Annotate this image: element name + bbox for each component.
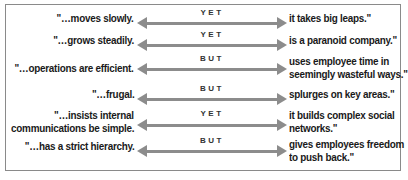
right-statement-line1: it builds complex social	[289, 109, 394, 122]
conjunction-label: BUT	[137, 54, 287, 63]
right-statement-line1: gives employees freedom	[289, 138, 404, 151]
double-arrow-icon	[137, 93, 287, 105]
right-statement: splurges on key areas."	[289, 88, 394, 101]
left-statement-line2: communications be simple.	[11, 122, 134, 135]
right-statement: it takes big leaps."	[289, 12, 371, 25]
left-statement: "…moves slowly.	[57, 12, 134, 25]
double-arrow-icon	[137, 119, 287, 131]
left-statement: "…frugal.	[92, 88, 134, 101]
right-statement-line2: to push back."	[289, 151, 354, 164]
left-statement: "…has a strict hierarchy.	[24, 140, 134, 153]
left-statement: "…grows steadily.	[53, 34, 134, 47]
conjunction-label: YET	[137, 30, 287, 39]
double-arrow-icon	[137, 39, 287, 51]
double-arrow-icon	[137, 145, 287, 157]
double-arrow-icon	[137, 17, 287, 29]
conjunction-label: YET	[137, 8, 287, 17]
double-arrow-icon	[137, 63, 287, 75]
right-statement-line1: uses employee time in	[289, 55, 389, 68]
right-statement-line2: seemingly wasteful ways."	[289, 68, 408, 81]
right-statement: is a paranoid company."	[289, 34, 397, 47]
conjunction-label: YET	[137, 109, 287, 118]
conjunction-label: BUT	[137, 136, 287, 145]
conjunction-label: BUT	[137, 84, 287, 93]
diagram-frame: "…moves slowly. YET it takes big leaps."…	[5, 4, 401, 171]
left-statement-line1: "…insists internal	[54, 109, 134, 122]
left-statement: "…operations are efficient.	[15, 62, 134, 75]
right-statement-line2: networks."	[289, 122, 337, 135]
